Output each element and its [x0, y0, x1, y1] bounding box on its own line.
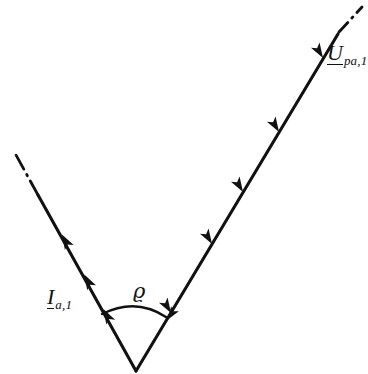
phasor-diagram-canvas: [0, 0, 368, 374]
voltage-symbol: U: [327, 42, 343, 65]
voltage-phasor-label: Upa,1: [327, 42, 366, 65]
current-ray-dashdot-extension: [16, 155, 38, 195]
current-subscript: a,1: [55, 298, 72, 311]
voltage-subscript: pa,1: [344, 54, 368, 67]
current-phasor-ray: [16, 155, 136, 371]
voltage-ray-dashdot-extension: [339, 7, 362, 32]
angle-label: ϱ: [133, 281, 145, 302]
current-phasor-label: Ia,1: [47, 286, 71, 309]
current-symbol: I: [47, 286, 54, 309]
voltage-ray-arrowheads: [159, 43, 327, 316]
phasor-diagram-figure: Ia,1 Upa,1 ϱ: [0, 0, 368, 374]
angle-arc: [102, 306, 166, 317]
voltage-ray-line: [136, 34, 338, 371]
